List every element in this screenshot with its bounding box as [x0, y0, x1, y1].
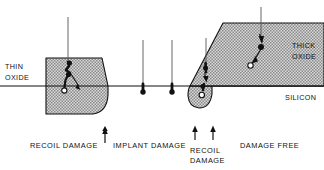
thick-oxide-label-line2: OXIDE — [292, 52, 316, 61]
pointer-arrow-recoil-right-a — [192, 126, 198, 141]
pointer-arrow-recoil-left — [102, 128, 108, 144]
thin-oxide-label: THIN OXIDE — [5, 62, 29, 82]
caption-damage-free-text: DAMAGE FREE — [240, 141, 299, 150]
thick-oxide-label-line1: THICK — [292, 41, 315, 50]
silicon-label: SILICON — [285, 93, 316, 102]
caption-implant-damage: IMPLANT DAMAGE — [113, 141, 186, 150]
caption-recoil-damage-left-text: RECOIL DAMAGE — [30, 141, 98, 150]
diagram-canvas: THIN OXIDE THICK OXIDE SILICON RECOIL DA… — [0, 0, 324, 170]
thin-oxide-label-line1: THIN — [5, 62, 23, 71]
caption-recoil-damage-right-line1: RECOIL — [190, 146, 221, 155]
silicon-label-text: SILICON — [285, 93, 316, 102]
caption-recoil-damage-left: RECOIL DAMAGE — [30, 141, 98, 150]
ion-implantation-damage-figure: THIN OXIDE THICK OXIDE SILICON RECOIL DA… — [0, 0, 324, 170]
pointer-arrow-recoil-right-b — [210, 126, 216, 141]
caption-recoil-damage-right-line2: DAMAGE — [190, 156, 225, 165]
caption-damage-free: DAMAGE FREE — [240, 141, 299, 150]
caption-recoil-damage-right: RECOIL DAMAGE — [190, 146, 225, 165]
thin-oxide-label-line2: OXIDE — [5, 73, 29, 82]
caption-implant-damage-text: IMPLANT DAMAGE — [113, 141, 186, 150]
